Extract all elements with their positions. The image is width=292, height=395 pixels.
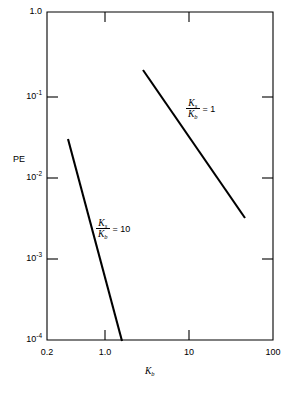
series-line-ks-kb-1 — [143, 70, 245, 218]
y-tick-label-1e-2: 10-2 — [8, 173, 42, 182]
data-series-group — [68, 70, 245, 341]
y-axis-ticks — [47, 97, 58, 259]
y-tick-label-1e-3: 10-3 — [8, 254, 42, 263]
annotation-value-10: = 10 — [110, 224, 131, 234]
axis-frame-rect — [47, 12, 273, 340]
fraction-ks-over-kb-1: Ks Kb — [186, 98, 200, 119]
x-axis-title: Kb — [145, 367, 155, 377]
annotation-value-1: = 1 — [200, 104, 216, 114]
y-axis-ticks-right — [262, 97, 273, 259]
axes-frame — [47, 12, 273, 340]
x-axis-ticks — [105, 330, 189, 340]
y-axis-title: PE — [13, 155, 25, 164]
fraction-ks-over-kb-10: Ks Kb — [96, 218, 110, 239]
annotation-ks-kb-1: Ks Kb = 1 — [186, 98, 215, 119]
y-tick-label-1e-4: 10-4 — [8, 335, 42, 344]
x-tick-label-0p2: 0.2 — [32, 348, 62, 357]
annotation-ks-kb-10: Ks Kb = 10 — [96, 218, 130, 239]
chart-figure: 1.0 10-1 10-2 10-3 10-4 0.2 1.0 10 100 P… — [0, 0, 292, 395]
x-tick-label-10: 10 — [174, 348, 204, 357]
y-tick-label-1p0: 1.0 — [12, 7, 42, 16]
x-tick-label-100: 100 — [258, 348, 288, 357]
x-axis-ticks-top — [105, 12, 189, 22]
plot-canvas — [0, 0, 292, 395]
x-tick-label-1p0: 1.0 — [90, 348, 120, 357]
y-tick-label-1e-1: 10-1 — [8, 92, 42, 101]
series-line-ks-kb-10 — [68, 139, 122, 341]
